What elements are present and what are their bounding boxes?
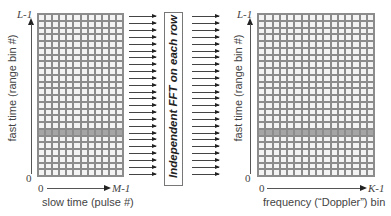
- matrix-cell: [346, 56, 351, 61]
- matrix-cell: [266, 56, 271, 61]
- matrix-cell: [332, 42, 337, 47]
- highlighted-cell: [346, 130, 351, 135]
- matrix-cell: [303, 137, 308, 142]
- matrix-cell: [361, 137, 366, 142]
- matrix-cell: [310, 35, 315, 40]
- matrix-cell: [317, 62, 322, 67]
- matrix-cell: [361, 96, 366, 101]
- matrix-cell: [259, 35, 264, 40]
- matrix-cell: [274, 123, 279, 128]
- matrix-cell: [295, 35, 300, 40]
- matrix-cell: [303, 103, 308, 108]
- matrix-cell: [82, 164, 87, 169]
- matrix-cell: [46, 170, 51, 175]
- matrix-cell: [103, 123, 108, 128]
- row-arrow-icon: [129, 37, 156, 38]
- row-arrow-icon: [192, 78, 219, 79]
- matrix-cell: [339, 62, 344, 67]
- matrix-cell: [39, 56, 44, 61]
- matrix-cell: [67, 103, 72, 108]
- left-x-axis-right-label: M-1: [112, 182, 130, 194]
- matrix-cell: [332, 89, 337, 94]
- matrix-cell: [89, 150, 94, 155]
- matrix-cell: [60, 89, 65, 94]
- matrix-cell: [266, 170, 271, 175]
- matrix-cell: [110, 22, 115, 27]
- matrix-cell: [53, 116, 58, 121]
- matrix-cell: [117, 143, 122, 148]
- row-arrow-icon: [192, 139, 219, 140]
- matrix-cell: [266, 15, 271, 20]
- matrix-cell: [89, 35, 94, 40]
- matrix-cell: [60, 137, 65, 142]
- row-arrow-icon: [129, 44, 156, 45]
- matrix-cell: [67, 49, 72, 54]
- matrix-cell: [324, 83, 329, 88]
- matrix-cell: [89, 69, 94, 74]
- matrix-cell: [89, 83, 94, 88]
- matrix-cell: [259, 96, 264, 101]
- matrix-cell: [303, 76, 308, 81]
- matrix-cell: [368, 56, 373, 61]
- matrix-cell: [317, 35, 322, 40]
- matrix-cell: [89, 137, 94, 142]
- matrix-cell: [60, 22, 65, 27]
- matrix-cell: [117, 150, 122, 155]
- matrix-cell: [266, 150, 271, 155]
- row-arrow-icon: [192, 126, 219, 127]
- matrix-cell: [259, 15, 264, 20]
- matrix-cell: [368, 62, 373, 67]
- matrix-cell: [266, 83, 271, 88]
- matrix-cell: [368, 96, 373, 101]
- matrix-cell: [317, 150, 322, 155]
- matrix-cell: [60, 150, 65, 155]
- row-arrow-icon: [192, 64, 219, 65]
- matrix-cell: [67, 143, 72, 148]
- matrix-cell: [103, 170, 108, 175]
- matrix-cell: [361, 35, 366, 40]
- matrix-cell: [303, 35, 308, 40]
- matrix-cell: [110, 42, 115, 47]
- matrix-cell: [332, 49, 337, 54]
- matrix-cell: [310, 89, 315, 94]
- matrix-cell: [332, 29, 337, 34]
- matrix-cell: [60, 116, 65, 121]
- matrix-cell: [361, 157, 366, 162]
- matrix-cell: [310, 164, 315, 169]
- matrix-cell: [332, 15, 337, 20]
- matrix-cell: [110, 103, 115, 108]
- matrix-cell: [281, 137, 286, 142]
- matrix-cell: [53, 22, 58, 27]
- highlighted-cell: [281, 130, 286, 135]
- matrix-cell: [332, 116, 337, 121]
- matrix-cell: [117, 62, 122, 67]
- matrix-cell: [303, 170, 308, 175]
- matrix-cell: [74, 35, 79, 40]
- matrix-cell: [60, 170, 65, 175]
- matrix-cell: [274, 170, 279, 175]
- matrix-cell: [110, 83, 115, 88]
- matrix-cell: [346, 137, 351, 142]
- matrix-cell: [46, 35, 51, 40]
- matrix-cell: [266, 96, 271, 101]
- matrix-cell: [60, 83, 65, 88]
- matrix-cell: [117, 157, 122, 162]
- row-arrow-icon: [192, 92, 219, 93]
- matrix-cell: [274, 137, 279, 142]
- matrix-cell: [310, 62, 315, 67]
- matrix-cell: [53, 164, 58, 169]
- matrix-cell: [117, 15, 122, 20]
- matrix-cell: [259, 83, 264, 88]
- matrix-cell: [288, 56, 293, 61]
- matrix-cell: [295, 123, 300, 128]
- matrix-cell: [103, 164, 108, 169]
- matrix-cell: [67, 62, 72, 67]
- matrix-cell: [339, 35, 344, 40]
- matrix-cell: [110, 35, 115, 40]
- matrix-cell: [74, 42, 79, 47]
- matrix-cell: [39, 96, 44, 101]
- matrix-cell: [295, 96, 300, 101]
- matrix-cell: [324, 103, 329, 108]
- matrix-cell: [117, 164, 122, 169]
- matrix-cell: [266, 103, 271, 108]
